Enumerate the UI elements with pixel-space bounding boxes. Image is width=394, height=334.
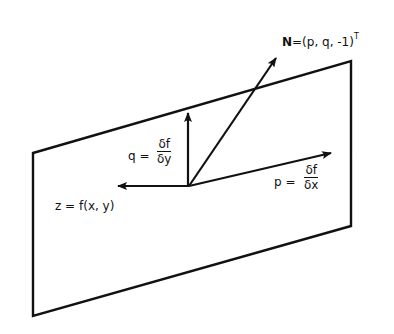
surface-normal-diagram [0, 0, 394, 334]
normal-components: =(p, q, -1) [292, 35, 354, 49]
q-fraction: δf δy [157, 138, 171, 165]
normal-vector-label: N=(p, q, -1)T [282, 36, 359, 48]
p-denominator: δx [304, 178, 318, 191]
p-numerator: δf [304, 164, 318, 178]
q-label-prefix: q = [128, 150, 150, 162]
p-label-prefix: p = [274, 176, 296, 188]
z-function-label: z = f(x, y) [55, 200, 114, 212]
p-fraction: δf δx [304, 164, 318, 191]
normal-symbol: N [282, 35, 292, 49]
normal-vector-arrow [189, 58, 276, 186]
q-numerator: δf [157, 138, 171, 152]
transpose-superscript: T [354, 32, 359, 41]
q-denominator: δy [157, 152, 171, 165]
